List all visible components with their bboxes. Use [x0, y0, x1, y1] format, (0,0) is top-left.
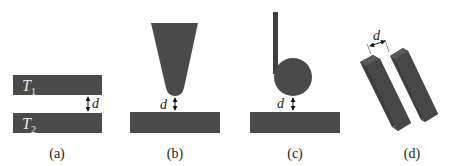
gap-label: d	[373, 28, 381, 43]
panel-caption: (b)	[167, 146, 184, 162]
sphere-probe	[274, 58, 312, 96]
dimension-extension-right	[385, 40, 389, 52]
panel-a: T1 T2 d (a)	[13, 75, 102, 162]
gap-label: d	[160, 97, 168, 112]
gap-label: d	[277, 96, 285, 111]
gap-label: d	[92, 96, 100, 111]
panel-c: d (c)	[250, 12, 340, 162]
figure-canvas: T1 T2 d (a) d (b) d (c)	[0, 0, 449, 166]
substrate-plate	[130, 112, 220, 133]
cantilever-rod	[273, 12, 278, 74]
panel-caption: (d)	[404, 146, 421, 162]
panel-d: d (d)	[360, 28, 438, 162]
panel-caption: (c)	[287, 146, 303, 162]
panel-b: d (b)	[130, 23, 220, 162]
substrate-plate	[250, 112, 340, 133]
conical-tip	[151, 23, 198, 96]
panel-caption: (a)	[49, 146, 65, 162]
